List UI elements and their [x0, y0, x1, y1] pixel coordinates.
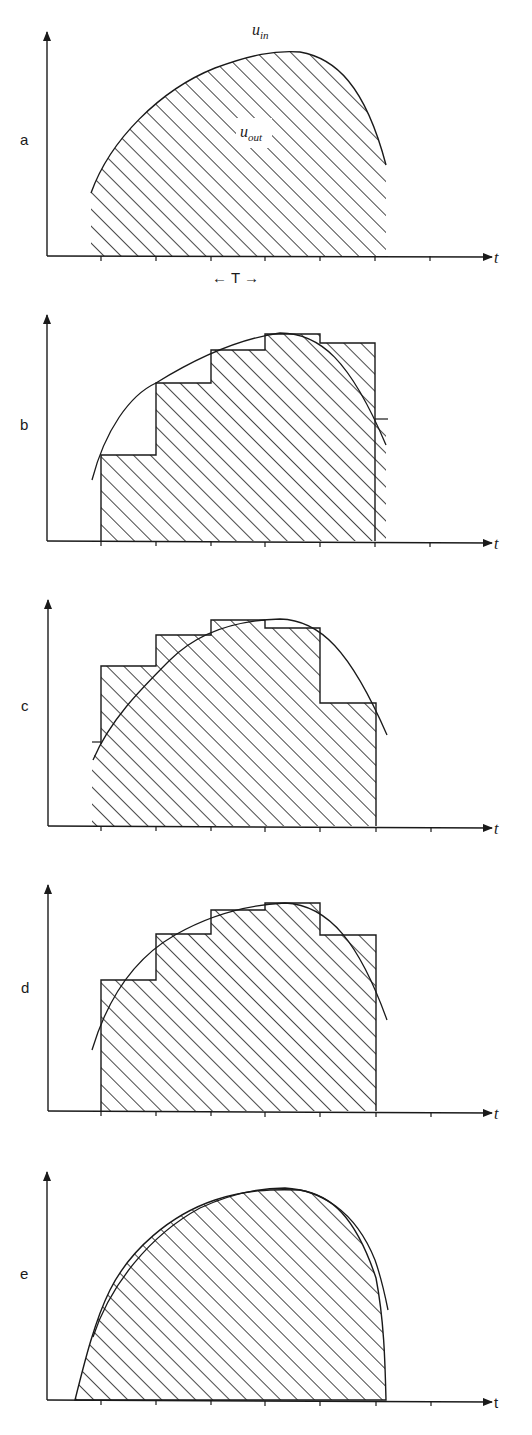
x-axis-label-a: t	[494, 249, 499, 266]
panel-e: e t	[20, 1172, 499, 1411]
panel-d: d t	[21, 885, 499, 1122]
panel-label-e: e	[20, 1265, 28, 1282]
x-axis-e	[47, 1400, 492, 1402]
x-axis-b	[47, 541, 492, 543]
hatched-area-c	[92, 620, 376, 826]
hatched-area-b	[101, 334, 386, 541]
panel-label-a: a	[20, 131, 29, 148]
u-in-label: uin	[252, 21, 269, 41]
period-T-label: ← T →	[212, 269, 259, 286]
x-axis-a	[47, 256, 492, 257]
x-axis-label-d: t	[494, 1105, 499, 1122]
x-axis-label-c: t	[494, 820, 499, 837]
hatched-area-a	[91, 52, 386, 256]
x-axis-c	[48, 826, 492, 828]
x-axis-label-b: t	[494, 535, 499, 552]
hatched-area-d	[101, 903, 376, 1111]
panel-b: b t	[20, 315, 499, 552]
panel-label-c: c	[21, 697, 29, 714]
figure-canvas: a t uin uout ← T → b t	[0, 0, 532, 1435]
panel-c: c t	[21, 600, 499, 837]
x-axis-d	[48, 1111, 492, 1113]
hatched-area-e	[75, 1190, 386, 1400]
panel-a: a t uin uout ← T →	[20, 21, 499, 286]
panel-label-d: d	[21, 979, 29, 996]
x-axis-label-e: t	[494, 1394, 499, 1411]
panel-label-b: b	[20, 416, 28, 433]
